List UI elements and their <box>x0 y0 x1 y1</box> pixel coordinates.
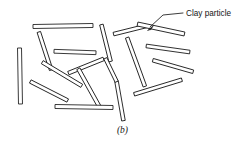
callout-leader-line <box>150 13 183 27</box>
clay-particle <box>100 24 113 62</box>
particle-diagram-canvas: Clay particle (b) <box>0 0 245 146</box>
clay-particle <box>68 57 105 75</box>
clay-particle <box>152 58 193 73</box>
figure-caption: (b) <box>117 125 128 136</box>
particles-group <box>18 22 194 121</box>
clay-particle <box>18 48 23 104</box>
clay-particle <box>137 22 185 36</box>
clay-particle <box>33 23 93 28</box>
clay-particle <box>146 44 190 54</box>
clay-particle <box>55 104 113 109</box>
clay-particle <box>125 37 146 87</box>
clay-particle <box>115 81 125 121</box>
clay-particle <box>29 80 68 102</box>
clay-particle <box>77 68 101 108</box>
clay-particle <box>54 49 96 54</box>
clay-particle-label: Clay particle <box>186 9 231 18</box>
clay-particle <box>41 61 82 88</box>
clay-particle-figure: Clay particle (b) <box>0 0 245 146</box>
